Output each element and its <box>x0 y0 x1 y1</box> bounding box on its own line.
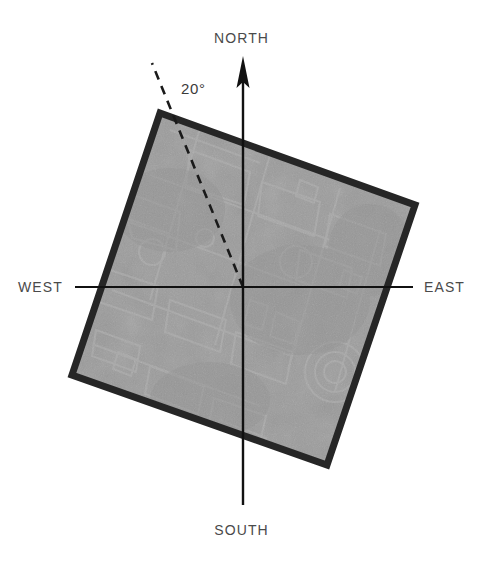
south-label: SOUTH <box>0 522 483 538</box>
angle-label: 20° <box>181 80 205 97</box>
diagram-canvas: NORTH SOUTH WEST EAST 20° <box>0 0 483 570</box>
square-grain <box>60 100 430 480</box>
east-label: EAST <box>424 279 465 295</box>
orientation-diagram <box>0 0 483 570</box>
west-label: WEST <box>18 279 63 295</box>
site-plan-square <box>60 100 430 480</box>
north-label: NORTH <box>0 30 483 46</box>
